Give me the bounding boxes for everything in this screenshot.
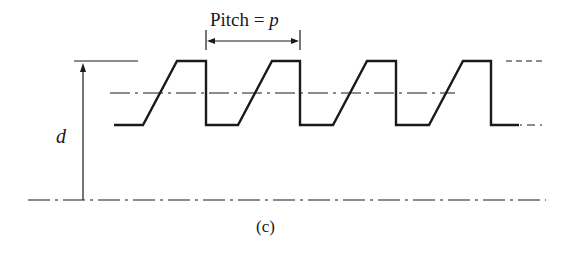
thread-profile-diagram: Pitch = p d (c)	[0, 0, 571, 254]
depth-dimension: d	[56, 63, 86, 200]
pitch-dimension: Pitch = p	[206, 9, 300, 50]
depth-label: d	[56, 125, 67, 147]
figure-caption: (c)	[256, 217, 275, 236]
pitch-label: Pitch = p	[210, 9, 279, 30]
